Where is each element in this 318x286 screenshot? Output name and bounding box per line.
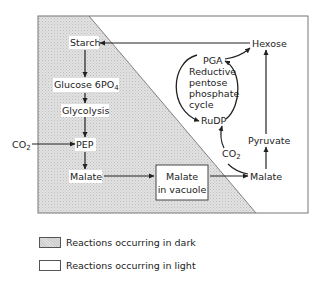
- node-cycle-line4: cycle: [189, 99, 214, 110]
- light-swatch: [39, 260, 61, 271]
- node-cycle-line2: pentose: [189, 77, 227, 88]
- arrow-malate-to-co2: [228, 164, 248, 174]
- node-hexose: Hexose: [252, 38, 287, 49]
- legend-label-dark: Reactions occurring in dark: [66, 237, 196, 248]
- node-pyruvate: Pyruvate: [248, 135, 290, 146]
- node-pep: PEP: [76, 139, 94, 150]
- node-cycle-line3: phosphate: [189, 88, 239, 99]
- node-malate-vacuole-line2: in vacuole: [158, 184, 207, 195]
- node-malate-right: Malate: [250, 171, 282, 182]
- dark-swatch: [39, 237, 61, 248]
- legend-item-dark: Reactions occurring in dark: [39, 237, 196, 248]
- node-pga: PGA: [203, 55, 223, 66]
- node-malate-vacuole-line1: Malate: [166, 171, 198, 182]
- legend-label-light: Reactions occurring in light: [66, 260, 196, 271]
- node-starch: Starch: [70, 37, 101, 48]
- arrow-co2-to-rudp: [221, 126, 224, 148]
- node-rudp: RuDP: [201, 115, 227, 126]
- node-co2-left: CO2: [12, 139, 31, 152]
- node-glycolysis: Glycolysis: [62, 105, 110, 116]
- node-co2-right: CO2: [222, 148, 241, 161]
- node-malate-left: Malate: [70, 171, 102, 182]
- arrow-pga-to-hexose: [225, 48, 250, 59]
- node-cycle-line1: Reductive: [189, 66, 236, 77]
- legend-item-light: Reactions occurring in light: [39, 260, 196, 271]
